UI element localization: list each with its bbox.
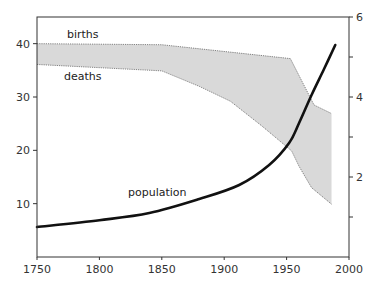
x-tick-label: 1900 [210,263,238,276]
y-left-tick-label: 30 [16,91,30,104]
y-left-tick-label: 20 [16,144,30,157]
population-label: population [128,186,187,199]
x-tick-label: 1950 [273,263,301,276]
y-right-tick-label: 2 [356,171,363,184]
demographic-transition-chart: 17501800185019001950200010203040246 birt… [0,0,380,290]
y-right-tick-label: 6 [356,11,363,24]
x-tick-label: 1750 [23,263,51,276]
x-tick-label: 2000 [335,263,363,276]
x-tick-label: 1800 [85,263,113,276]
y-left-tick-label: 10 [16,198,30,211]
deaths-label: deaths [64,70,102,83]
birth-death-gap-band [37,44,332,205]
births-label: births [67,28,99,41]
band-fill [37,44,332,205]
y-right-tick-label: 4 [356,91,363,104]
x-tick-label: 1850 [148,263,176,276]
y-left-tick-label: 40 [16,38,30,51]
